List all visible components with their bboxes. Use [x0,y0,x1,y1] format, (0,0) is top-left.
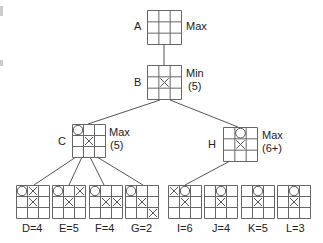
node-h-value: (6+) [262,142,282,154]
edge-b-h [170,100,238,127]
leaf-k-board [241,185,275,219]
leaf-l-label: L=3 [286,222,305,234]
edge-c-f [90,157,104,185]
node-c-value: (5) [110,139,123,151]
edge-h-i [185,161,230,185]
node-h-name: H [208,138,216,150]
leaf-f-label: F=4 [95,222,114,234]
game-tree-diagram: A Max B Min (5) C Max (5) H Max (6+) D=4… [0,0,323,243]
node-h-role: Max [262,129,283,141]
node-a-board [147,10,182,45]
edge-artifact [0,60,3,66]
o-mark-icon [216,186,225,195]
leaf-i-label: I=6 [177,222,193,234]
node-c-name: C [58,135,66,147]
node-a-role: Max [186,20,207,32]
leaf-e-board [52,185,86,219]
edge-c-g [97,157,143,185]
node-b-name: B [134,76,141,88]
node-c-role: Max [109,126,130,138]
o-mark-icon [236,128,246,138]
edge-artifact [0,6,3,16]
edge-c-d [34,157,76,185]
o-mark-icon [53,186,62,195]
o-mark-icon [180,186,189,195]
node-a-name: A [134,20,141,32]
edge-c-e [69,157,82,185]
leaf-g-label: G=2 [131,222,152,234]
edge-b-c [88,100,160,124]
leaf-l-board [277,185,311,219]
leaf-i-board [168,185,202,219]
o-mark-icon [126,186,135,195]
leaf-j-board [204,185,238,219]
node-h-board [223,127,258,162]
node-b-board [147,65,182,100]
o-mark-icon [90,186,99,195]
leaf-d-label: D=4 [22,222,43,234]
node-c-board [72,124,106,158]
o-mark-icon [17,186,26,195]
o-mark-icon [289,186,298,195]
o-mark-icon [253,186,262,195]
leaf-k-label: K=5 [248,222,268,234]
leaf-g-board [125,185,159,219]
leaf-e-label: E=5 [59,222,79,234]
leaf-f-board [89,185,123,219]
o-mark-icon [73,125,82,134]
node-b-value: (5) [188,80,201,92]
leaf-d-board [16,185,50,219]
node-b-role: Min [186,67,204,79]
leaf-j-label: J=4 [212,222,230,234]
